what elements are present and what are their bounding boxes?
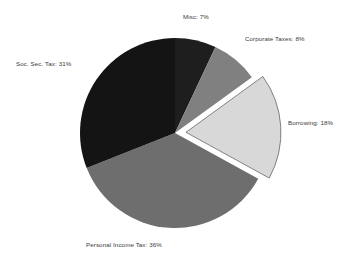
slice-label-soc-sec-tax: Soc. Sec. Tax: 31% [16,60,71,68]
slice-label-misc: Misc: 7% [183,13,209,21]
pie-chart: Misc: 7% Corporate Taxes: 8% Borrowing: … [0,0,359,262]
slice-label-borrowing: Borrowing: 18% [288,119,333,127]
pie-chart-canvas [0,0,359,262]
pie-slice-group [80,38,281,228]
slice-label-corporate-taxes: Corporate Taxes: 8% [245,35,305,43]
slice-label-personal-income-tax: Personal Income Tax: 36% [86,241,162,249]
